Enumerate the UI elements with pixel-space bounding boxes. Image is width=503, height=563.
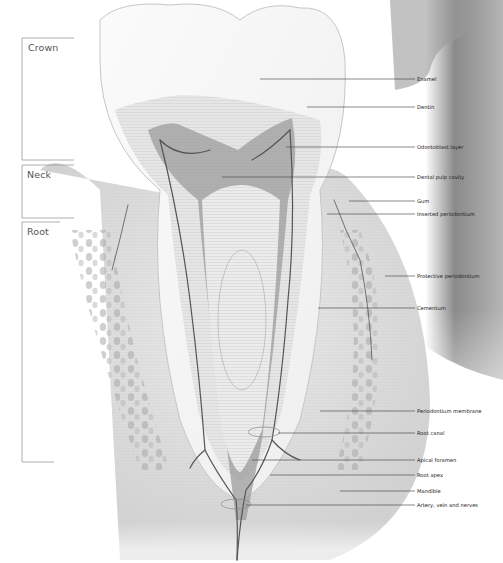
callout-inserted-periodontium: Inserted periodontium: [417, 211, 475, 217]
callout-protective-periodontium: Protective periodontium: [417, 273, 480, 279]
callout-enamel: Enamel: [417, 76, 436, 82]
tooth-anatomy-diagram: Crown Neck Root Enamel Dentin Odontoblas…: [0, 0, 503, 563]
callout-artery-vein-nerves: Artery, vein and nerves: [417, 502, 478, 508]
callout-cementum: Cementum: [417, 305, 446, 311]
callout-root-canal: Root canal: [417, 430, 444, 436]
callout-mandible: Mandible: [417, 488, 441, 494]
callout-dentin: Dentin: [417, 104, 434, 110]
tooth-illustration: [0, 0, 503, 563]
callout-periodontium-membrane: Periodontium membrane: [417, 408, 481, 414]
callout-apical-foramen: Apical foramen: [417, 457, 456, 463]
callout-root-apex: Root apex: [417, 472, 443, 478]
region-label-neck: Neck: [27, 169, 51, 180]
region-label-crown: Crown: [28, 42, 58, 53]
callout-odontoblast-layer: Odontoblast layer: [417, 144, 463, 150]
callout-dental-pulp-cavity: Dental pulp cavity: [417, 174, 464, 180]
callout-gum: Gum: [417, 198, 429, 204]
region-label-root: Root: [27, 226, 49, 237]
